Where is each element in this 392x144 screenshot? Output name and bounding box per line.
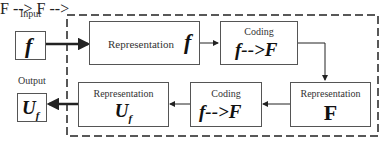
node-symbol: F	[291, 100, 370, 126]
node-symbol: f-->F	[199, 101, 241, 123]
node-caption: Coding	[191, 88, 261, 99]
edge-coding-1-to-rep-F	[298, 43, 325, 80]
node-representation-f: Representation f	[89, 21, 200, 65]
node-symbol: f-->F	[235, 39, 277, 61]
node-coding-1: Coding f-->F	[220, 21, 298, 65]
input-symbol: f	[25, 33, 32, 59]
node-caption: Coding	[221, 26, 297, 37]
output-symbol: Uf	[22, 97, 39, 121]
node-caption: Representation	[291, 88, 370, 99]
input-label: Input	[20, 8, 41, 19]
output-node: Uf	[17, 93, 47, 122]
node-symbol: f	[184, 29, 191, 55]
node-coding-2: Coding f-->F	[190, 82, 262, 127]
node-representation-F: Representation F	[290, 82, 371, 127]
node-symbol: Uf	[79, 100, 168, 124]
node-caption: Representation	[108, 38, 174, 50]
output-label: Output	[18, 75, 46, 86]
input-node: f	[15, 31, 46, 60]
node-representation-Uf: Representation Uf	[78, 82, 169, 127]
node-caption: Representation	[79, 88, 168, 99]
